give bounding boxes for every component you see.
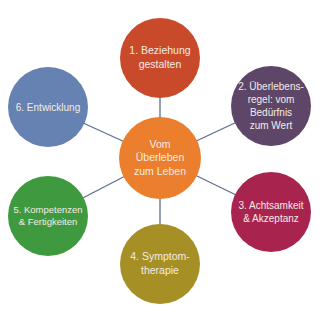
node-ueberlebensregel: 2. Überlebens- regel: vom Bedürfnis zum …: [231, 66, 311, 146]
node-symptomtherapie: 4. Symptom- therapie: [120, 224, 200, 304]
node-label: 4. Symptom- therapie: [130, 250, 190, 277]
node-label: 6. Entwicklung: [16, 101, 80, 114]
node-beziehung-gestalten: 1. Beziehung gestalten: [120, 18, 200, 98]
node-entwicklung: 6. Entwicklung: [8, 67, 88, 147]
node-label: 1. Beziehung gestalten: [129, 44, 190, 71]
node-kompetenzen-fertigkeiten: 5. Kompetenzen & Fertigkeiten: [8, 176, 88, 256]
center-label: Vom Überleben zum Leben: [134, 138, 186, 179]
node-label: 3. Achtsamkeit & Akzeptanz: [238, 199, 303, 225]
node-label: 5. Kompetenzen & Fertigkeiten: [13, 204, 82, 229]
node-label: 2. Überlebens- regel: vom Bedürfnis zum …: [238, 80, 304, 132]
center-node: Vom Überleben zum Leben: [119, 117, 201, 199]
node-achtsamkeit-akzeptanz: 3. Achtsamkeit & Akzeptanz: [231, 172, 311, 252]
